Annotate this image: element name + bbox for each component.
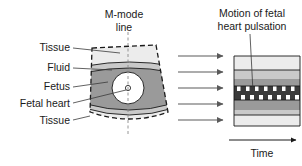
time-axis-label: Time xyxy=(251,147,274,159)
strip-band-fetus-upper xyxy=(234,79,300,86)
mmode-strip-chart xyxy=(234,55,300,127)
strip-bands xyxy=(234,55,300,127)
leader-tissue-inner xyxy=(73,116,90,120)
mmode-title-line2: line xyxy=(116,21,133,33)
ultrasound-mmode-figure: M-mode line Tissue Fluid Fetus Fetal hea… xyxy=(0,0,302,166)
strip-band-tissue-lower xyxy=(234,115,300,126)
label-tissue-outer: Tissue xyxy=(39,41,70,53)
pulsation-title-line1: Motion of fetal xyxy=(219,7,285,19)
propagation-arrows xyxy=(178,56,223,120)
label-fetus: Fetus xyxy=(44,80,70,92)
label-fluid: Fluid xyxy=(47,61,70,73)
pulsation-title-line2: heart pulsation xyxy=(218,20,287,32)
strip-band-fluid-lower xyxy=(234,110,300,115)
label-fetal-heart: Fetal heart xyxy=(20,97,70,109)
mmode-title-line1: M-mode xyxy=(105,8,144,20)
strip-band-tissue-upper xyxy=(234,56,300,70)
strip-band-fluid-upper xyxy=(234,70,300,79)
label-tissue-inner: Tissue xyxy=(39,114,70,126)
strip-band-fetus-lower xyxy=(234,100,300,110)
